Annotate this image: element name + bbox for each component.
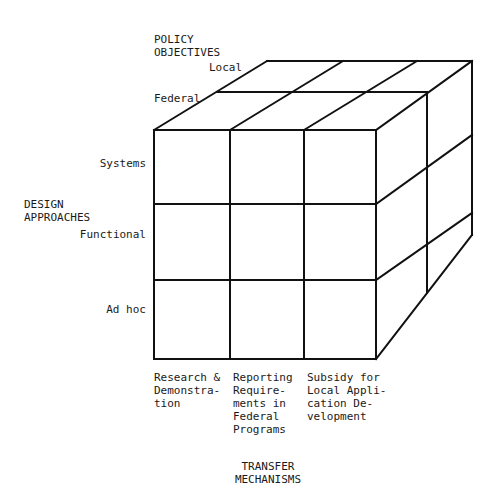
title-line: APPROACHES (24, 211, 90, 224)
label-line: Require- (233, 384, 286, 397)
title-line: POLICY (154, 33, 194, 46)
level-reporting-requirements: ReportingRequire-ments inFederalPrograms (233, 371, 293, 436)
title-line: DESIGN (24, 198, 64, 211)
label-line: tion (154, 397, 181, 410)
label-line: Demonstra- (154, 384, 220, 397)
label-line: Subsidy for (307, 371, 380, 384)
front-face (154, 130, 376, 359)
level-functional: Functional (40, 228, 146, 241)
level-research-demonstration: Research &Demonstra-tion (154, 371, 220, 410)
level-ad-hoc: Ad hoc (60, 303, 146, 316)
policy-objectives-title: POLICYOBJECTIVES (154, 33, 220, 59)
label-line: Federal (233, 410, 279, 423)
level-local: Local (209, 61, 242, 74)
label-line: Programs (233, 423, 286, 436)
label-line: Reporting (233, 371, 293, 384)
transfer-mechanisms-title: TRANSFERMECHANISMS (233, 460, 303, 486)
label-line: ments in (233, 397, 286, 410)
label-line: velopment (307, 410, 367, 423)
title-line: OBJECTIVES (154, 46, 220, 59)
level-federal: Federal (154, 92, 200, 105)
label-line: cation De- (307, 397, 373, 410)
design-approaches-title: DESIGNAPPROACHES (24, 198, 90, 224)
label-line: Local Appli- (307, 384, 386, 397)
level-systems: Systems (60, 157, 146, 170)
title-line: TRANSFER (242, 460, 295, 473)
label-line: Research & (154, 371, 220, 384)
title-line: MECHANISMS (235, 473, 301, 486)
level-subsidy-local: Subsidy forLocal Appli-cation De-velopme… (307, 371, 386, 423)
